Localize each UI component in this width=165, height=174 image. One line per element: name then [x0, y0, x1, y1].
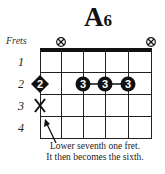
svg-text:2: 2 — [37, 78, 43, 90]
finger-diamond-icon: 2 — [31, 75, 49, 93]
nut — [40, 48, 152, 52]
svg-text:3: 3 — [125, 78, 131, 90]
annotation-line-1: Lower seventh one fret. — [20, 141, 165, 152]
svg-text:3: 3 — [80, 78, 86, 90]
finger-circle-icon: 3 — [76, 77, 91, 92]
finger-circle-icon: 3 — [121, 77, 136, 92]
annotation-text: Lower seventh one fret. It then becomes … — [20, 141, 165, 163]
muted-string-icon — [57, 38, 66, 47]
annotation-line-2: It then becomes the sixth. — [20, 152, 165, 163]
annotation-arrow-icon — [44, 119, 56, 143]
finger-circle-icon: 3 — [98, 77, 113, 92]
svg-text:3: 3 — [102, 78, 108, 90]
muted-string-icon — [147, 38, 156, 47]
